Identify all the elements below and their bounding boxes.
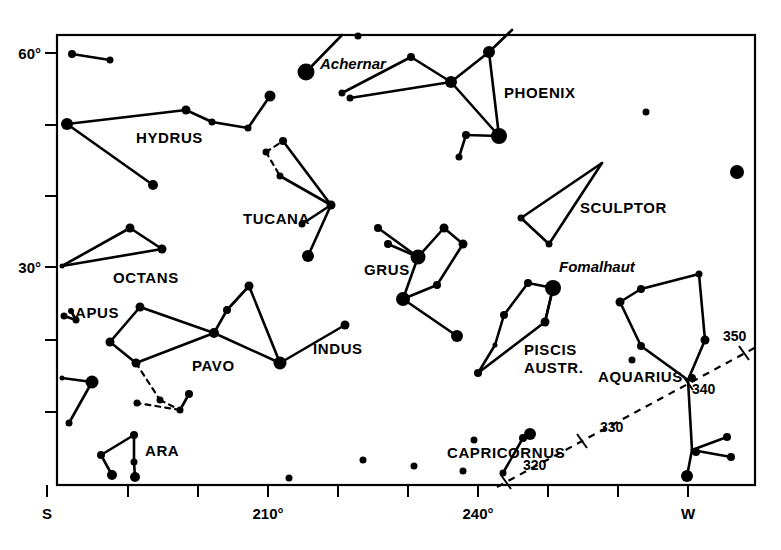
star-point <box>545 280 561 296</box>
constellation-label: AQUARIUS <box>598 368 683 385</box>
star-point <box>177 407 184 414</box>
ecliptic-tick-label: 320 <box>523 457 547 473</box>
ecliptic-tick-label: 340 <box>692 381 716 397</box>
y-tick-label: 30° <box>18 259 41 276</box>
star-point <box>723 433 731 441</box>
star-point <box>86 376 99 389</box>
star-point <box>60 376 65 381</box>
star-point <box>327 201 336 210</box>
star-point <box>68 50 76 58</box>
star-point <box>263 149 270 156</box>
star-point <box>209 119 216 126</box>
constellation-label: PISCIS <box>524 341 577 358</box>
star-point <box>396 292 410 306</box>
star-point <box>302 250 314 262</box>
constellation-label: APUS <box>75 304 119 321</box>
star-point <box>541 318 550 327</box>
star-point <box>223 306 231 314</box>
star-point <box>182 106 191 115</box>
star-point <box>474 369 482 377</box>
star-point <box>500 470 507 477</box>
x-tick-label: W <box>681 505 696 522</box>
star-point <box>107 57 114 64</box>
x-tick-label: 240° <box>462 505 493 522</box>
star-point <box>277 173 284 180</box>
star-point <box>445 76 457 88</box>
star-point <box>286 475 293 482</box>
star-name-label: Achernar <box>319 55 387 72</box>
star-point <box>132 359 141 368</box>
constellation-label: GRUS <box>364 261 410 278</box>
star-point <box>157 397 164 404</box>
star-point <box>491 128 507 144</box>
star-point <box>245 125 252 132</box>
star-point <box>546 241 553 248</box>
x-tick-label: 210° <box>252 505 283 522</box>
star-point <box>134 400 141 407</box>
star-point <box>500 311 508 319</box>
star-point <box>339 90 346 97</box>
star-point <box>265 91 276 102</box>
star-point <box>727 453 735 461</box>
star-point <box>524 428 536 440</box>
star-point <box>131 459 138 466</box>
star-point <box>97 451 105 459</box>
star-point <box>407 53 415 61</box>
star-point <box>462 131 470 139</box>
y-tick-label: 60° <box>18 45 41 62</box>
star-point <box>451 330 463 342</box>
star-point <box>130 431 138 439</box>
star-point <box>355 33 362 40</box>
star-point <box>471 437 478 444</box>
star-point <box>681 470 693 482</box>
star-point <box>460 468 467 475</box>
star-point <box>493 343 498 348</box>
star-point <box>643 109 650 116</box>
constellation-label: SCULPTOR <box>580 199 667 216</box>
constellation-label: TUCANA <box>243 210 310 227</box>
star-point <box>126 224 135 233</box>
constellation-label: INDUS <box>313 340 363 357</box>
star-chart-canvas: S210°240°W 60°30° HYDRUSOCTANSAPUSPAVOAR… <box>0 0 781 550</box>
x-tick-label: S <box>42 505 52 522</box>
star-point <box>637 342 645 350</box>
star-point <box>279 137 287 145</box>
star-point <box>136 303 145 312</box>
star-point <box>696 271 703 278</box>
star-point <box>384 240 392 248</box>
star-point <box>360 457 367 464</box>
star-point <box>148 180 158 190</box>
star-point <box>440 224 449 233</box>
star-point <box>411 250 426 265</box>
star-point <box>158 245 167 254</box>
star-point <box>629 357 636 364</box>
star-point <box>483 46 495 58</box>
constellation-label: PHOENIX <box>504 84 576 101</box>
star-point <box>341 321 350 330</box>
star-point <box>692 448 700 456</box>
star-point <box>298 64 315 81</box>
star-point <box>60 264 65 269</box>
star-point <box>459 240 468 249</box>
constellation-label: AUSTR. <box>524 359 583 376</box>
star-point <box>245 282 254 291</box>
constellation-label: CAPRICORNUS <box>447 444 565 461</box>
constellation-label: ARA <box>145 442 179 459</box>
star-point <box>518 215 525 222</box>
star-point <box>130 472 140 482</box>
star-point <box>106 338 115 347</box>
star-point <box>730 165 744 179</box>
star-point <box>209 328 219 338</box>
star-point <box>274 357 287 370</box>
star-point <box>107 470 117 480</box>
ecliptic-tick-label: 350 <box>723 328 747 344</box>
star-point <box>411 463 418 470</box>
constellation-label: PAVO <box>192 357 235 374</box>
star-name-label: Fomalhaut <box>559 258 636 275</box>
star-point <box>61 313 68 320</box>
star-point <box>637 285 645 293</box>
star-point <box>66 420 73 427</box>
star-point <box>701 336 710 345</box>
star-point <box>68 308 74 314</box>
constellation-label: OCTANS <box>113 269 179 286</box>
